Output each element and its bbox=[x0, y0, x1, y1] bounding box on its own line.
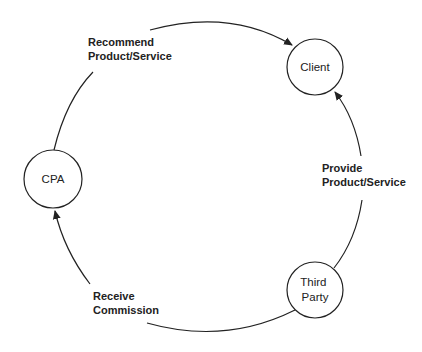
edge-label-line-1: Recommend bbox=[88, 36, 154, 48]
node-circle bbox=[287, 262, 343, 318]
node-label-line-2: Party bbox=[302, 291, 329, 303]
node-client: Client bbox=[287, 39, 343, 95]
edge-third-party-to-client: Provide Product/Service bbox=[322, 92, 406, 268]
edge-label-line-2: Commission bbox=[93, 304, 159, 316]
node-label-line-1: Third bbox=[300, 276, 326, 288]
edge-label-line-2: Product/Service bbox=[322, 176, 406, 188]
edge-label-recommend: Recommend Product/Service bbox=[88, 36, 172, 62]
node-cpa: CPA bbox=[24, 150, 82, 208]
arc-lower-left-to-cpa bbox=[55, 211, 90, 284]
node-third-party: Third Party bbox=[287, 262, 343, 318]
node-label: CPA bbox=[42, 173, 65, 185]
edge-third-party-to-cpa: Receive Commission bbox=[55, 211, 295, 331]
edge-label-line-2: Product/Service bbox=[88, 50, 172, 62]
node-label: Client bbox=[300, 61, 330, 73]
arc-right-lower bbox=[334, 200, 362, 268]
diagram-canvas: Recommend Product/Service Provide Produc… bbox=[0, 0, 422, 352]
arc-top-to-client bbox=[150, 22, 292, 45]
arc-cpa-upper bbox=[54, 72, 93, 150]
arc-bottom bbox=[147, 310, 295, 331]
arc-right-upper-to-client bbox=[335, 92, 361, 156]
edge-label-line-1: Provide bbox=[322, 162, 362, 174]
edge-cpa-to-client: Recommend Product/Service bbox=[54, 22, 292, 150]
edge-label-line-1: Receive bbox=[93, 290, 135, 302]
edge-label-receive: Receive Commission bbox=[93, 290, 159, 316]
edge-label-provide: Provide Product/Service bbox=[322, 162, 406, 188]
cycle-diagram: Recommend Product/Service Provide Produc… bbox=[0, 0, 422, 352]
